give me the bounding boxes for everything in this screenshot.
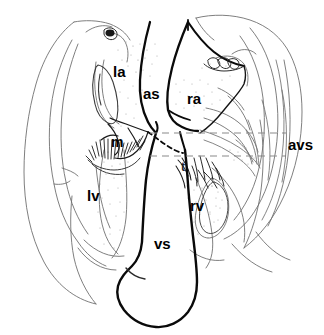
label-right-atrium: ra xyxy=(187,91,201,106)
label-tricuspid-valve: t xyxy=(181,161,185,173)
ventricular-septum-right-join xyxy=(180,132,185,150)
label-mitral-valve: m xyxy=(111,135,123,149)
label-right-ventricle: rv xyxy=(190,198,204,213)
right-chordae-tendineae xyxy=(192,156,224,188)
lateral-wall-contour xyxy=(262,60,284,220)
heart-diagram-figure: la as ra m t lv rv vs avs xyxy=(0,0,324,335)
label-left-ventricle: lv xyxy=(87,188,100,203)
atrial-septum-right-border xyxy=(167,22,198,131)
ventricular-septum-upper-join xyxy=(156,122,158,133)
upper-vein-ostium xyxy=(106,30,115,37)
label-ventricular-septum: vs xyxy=(154,236,171,251)
label-atrioventricular-septum: avs xyxy=(288,137,313,152)
heart-anatomy-illustration xyxy=(0,0,324,335)
right-wall-crossing-contours xyxy=(200,90,287,182)
label-atrial-septum: as xyxy=(143,86,160,101)
left-papillary-muscle xyxy=(88,158,140,175)
label-left-atrium: la xyxy=(113,64,126,79)
outer-epicardial-contours xyxy=(24,15,302,304)
atrial-septum-left-border xyxy=(140,22,156,133)
